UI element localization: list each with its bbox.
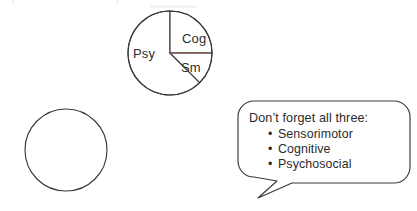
callout-item-sensorimotor: Sensorimotor [278, 127, 353, 141]
pie-chart-group: Cog Sm Psy [128, 11, 212, 95]
bullet-marker: • [268, 127, 272, 141]
pie-label-sensorimotor: Sm [181, 60, 201, 75]
pie-label-psychosocial: Psy [133, 46, 156, 61]
pie-label-cognitive: Cog [182, 31, 206, 46]
bullet-marker: • [268, 157, 272, 171]
diagram-canvas: Cog Sm Psy Don’t forget all three: • Sen… [0, 0, 417, 211]
callout-item-psychosocial: Psychosocial [278, 157, 352, 171]
diagram-svg: Cog Sm Psy Don’t forget all three: • Sen… [0, 0, 417, 211]
callout-heading: Don’t forget all three: [249, 111, 368, 125]
callout-bubble-group: Don’t forget all three: • Sensorimotor •… [238, 101, 410, 198]
blank-circle[interactable] [25, 109, 107, 191]
bullet-marker: • [268, 142, 272, 156]
callout-item-cognitive: Cognitive [278, 142, 331, 156]
